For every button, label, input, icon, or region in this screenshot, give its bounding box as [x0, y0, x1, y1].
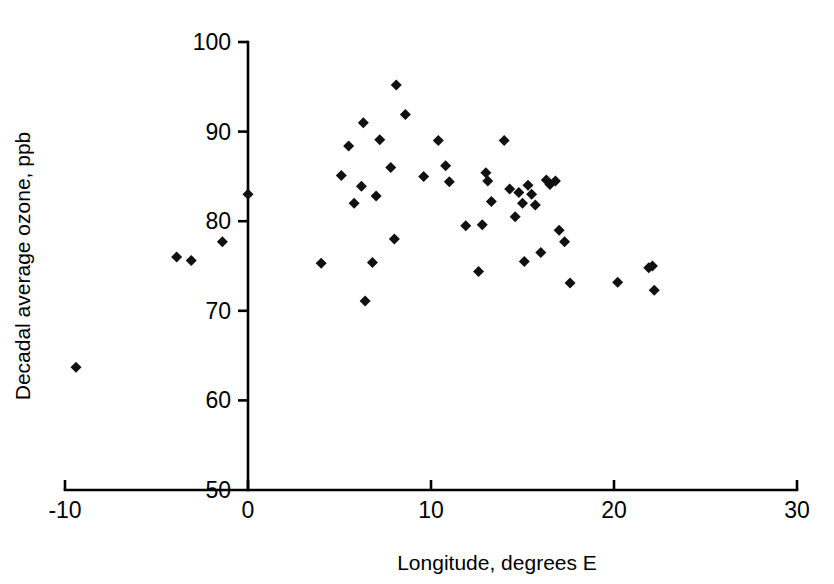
x-axis-title: Longitude, degrees E: [397, 551, 597, 574]
data-point-marker: [499, 135, 510, 146]
data-point-marker: [356, 181, 367, 192]
data-point-marker: [473, 266, 484, 277]
x-tick-label: 10: [418, 497, 444, 523]
y-tick-label: 70: [205, 298, 231, 324]
data-point-marker: [482, 175, 493, 186]
data-point-marker: [444, 176, 455, 187]
y-tick-label: 80: [205, 208, 231, 234]
data-point-marker: [186, 255, 197, 266]
y-tick-label: 90: [205, 119, 231, 145]
y-axis-title: Decadal average ozone, ppb: [11, 132, 34, 401]
data-point-marker: [477, 219, 488, 230]
x-tick-label: -10: [48, 497, 81, 523]
data-point-marker: [535, 247, 546, 258]
x-axis-tick-labels: -100102030: [48, 497, 809, 523]
scatter-plot-figure: 5060708090100 -100102030 Longitude, degr…: [0, 0, 834, 584]
data-point-marker: [316, 258, 327, 269]
x-tick-label: 0: [242, 497, 255, 523]
data-point-marker: [70, 362, 81, 373]
data-point-marker: [358, 117, 369, 128]
data-point-marker: [440, 160, 451, 171]
x-axis-ticks: [65, 480, 797, 490]
data-point-marker: [349, 198, 360, 209]
data-point-marker: [360, 295, 371, 306]
data-point-marker: [343, 140, 354, 151]
data-point-marker: [171, 252, 182, 263]
y-axis: 5060708090100: [193, 29, 248, 503]
data-point-marker: [391, 80, 402, 91]
data-point-marker: [367, 257, 378, 268]
x-tick-label: 30: [784, 497, 810, 523]
data-point-marker: [433, 135, 444, 146]
data-point-marker: [530, 200, 541, 211]
data-point-marker: [519, 256, 530, 267]
data-point-marker: [400, 109, 411, 120]
y-tick-label: 60: [205, 387, 231, 413]
data-point-marker: [513, 187, 524, 198]
data-point-marker: [517, 198, 528, 209]
y-axis-tick-labels: 5060708090100: [193, 29, 231, 503]
scatter-data-points: [70, 80, 659, 373]
x-axis: -100102030: [48, 480, 809, 523]
y-tick-label: 100: [193, 29, 231, 55]
x-tick-label: 20: [601, 497, 627, 523]
data-point-marker: [554, 225, 565, 236]
data-point-marker: [559, 236, 570, 247]
data-point-marker: [649, 285, 660, 296]
plot-canvas: 5060708090100 -100102030 Longitude, degr…: [0, 0, 834, 584]
data-point-marker: [480, 167, 491, 178]
data-point-marker: [510, 211, 521, 222]
data-point-marker: [418, 171, 429, 182]
data-point-marker: [504, 183, 515, 194]
data-point-marker: [371, 191, 382, 202]
data-point-marker: [565, 278, 576, 289]
data-point-marker: [612, 277, 623, 288]
data-point-marker: [385, 162, 396, 173]
data-point-marker: [486, 196, 497, 207]
data-point-marker: [374, 134, 385, 145]
data-point-marker: [389, 234, 400, 245]
y-axis-ticks: [238, 42, 248, 400]
data-point-marker: [336, 170, 347, 181]
data-point-marker: [217, 236, 228, 247]
data-point-marker: [243, 189, 254, 200]
data-point-marker: [460, 220, 471, 231]
